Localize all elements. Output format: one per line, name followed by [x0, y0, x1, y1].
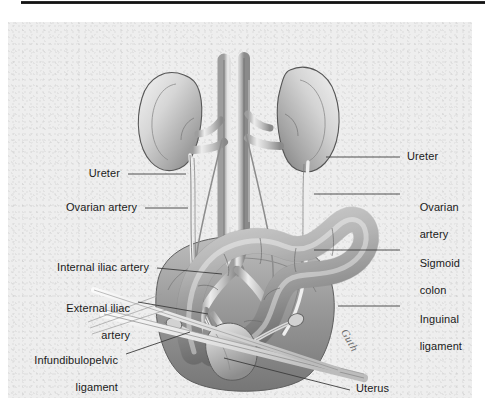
label-ovarian-artery-right-line1: Ovarian — [420, 201, 459, 213]
label-internal-iliac-artery: Internal iliac artery — [4, 261, 149, 275]
label-ureter-left: Ureter — [28, 167, 120, 181]
label-inguinal-ligament: Inguinal ligament — [407, 299, 481, 367]
label-sigmoid-colon-line1: Sigmoid — [420, 257, 460, 269]
label-external-iliac-artery-line2: artery — [101, 329, 130, 341]
label-inguinal-ligament-line2: ligament — [420, 340, 462, 352]
right-kidney — [277, 67, 339, 172]
label-inguinal-ligament-line1: Inguinal — [420, 313, 459, 325]
illustration-page: Guth Ureter Ovarian artery Internal ilia… — [0, 0, 485, 412]
label-external-iliac-artery-line1: External iliac — [66, 302, 130, 314]
label-ureter-right: Ureter — [407, 150, 481, 164]
label-uterus: Uterus — [356, 382, 426, 396]
left-kidney — [138, 73, 201, 171]
label-ovarian-artery-right-line2: artery — [420, 228, 449, 240]
label-infundibulopelvic-ligament-line1: Infundibulopelvic — [34, 354, 118, 366]
renal-vessels — [193, 114, 280, 150]
label-infundibulopelvic-ligament: Infundibulopelvic ligament — [8, 340, 118, 408]
top-divider-rule — [21, 1, 485, 4]
label-ovarian-artery-left: Ovarian artery — [18, 201, 137, 215]
label-sigmoid-colon-line2: colon — [420, 284, 447, 296]
label-infundibulopelvic-ligament-line2: ligament — [76, 381, 118, 393]
